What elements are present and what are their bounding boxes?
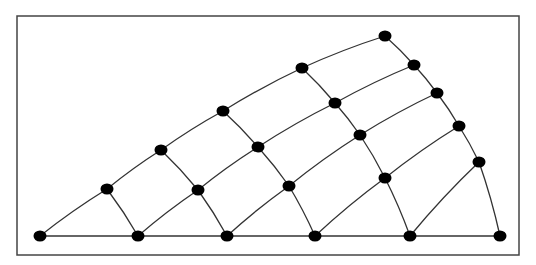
mesh-edge <box>360 93 437 135</box>
mesh-node <box>252 142 265 153</box>
mesh-diagram <box>0 0 536 265</box>
mesh-edge <box>302 36 385 68</box>
mesh-node <box>221 231 234 242</box>
mesh-edge <box>138 190 198 236</box>
mesh-edges <box>40 36 500 236</box>
mesh-edge <box>161 111 223 150</box>
mesh-edge <box>223 111 258 147</box>
mesh-node <box>379 173 392 184</box>
mesh-node <box>283 181 296 192</box>
mesh-node <box>155 145 168 156</box>
mesh-node <box>494 231 507 242</box>
mesh-edge <box>227 186 289 236</box>
mesh-edge <box>385 178 410 236</box>
mesh-node <box>453 121 466 132</box>
mesh-edge <box>335 65 414 103</box>
mesh-node <box>34 231 47 242</box>
mesh-edge <box>479 162 500 236</box>
mesh-node <box>296 63 309 74</box>
mesh-edge <box>385 36 414 65</box>
mesh-edge <box>198 147 258 190</box>
mesh-edge <box>459 126 479 162</box>
mesh-node <box>404 231 417 242</box>
mesh-node <box>408 60 421 71</box>
mesh-edge <box>437 93 459 126</box>
mesh-node <box>309 231 322 242</box>
mesh-edge <box>198 190 227 236</box>
mesh-node <box>379 31 392 42</box>
mesh-edge <box>302 68 335 103</box>
mesh-edge <box>289 135 360 186</box>
mesh-edge <box>360 135 385 178</box>
mesh-node <box>431 88 444 99</box>
mesh-node <box>354 130 367 141</box>
mesh-edge <box>258 147 289 186</box>
mesh-nodes <box>34 31 507 242</box>
mesh-node <box>473 157 486 168</box>
mesh-node <box>217 106 230 117</box>
mesh-edge <box>385 126 459 178</box>
mesh-edge <box>335 103 360 135</box>
mesh-edge <box>107 150 161 189</box>
mesh-edge <box>40 189 107 236</box>
mesh-node <box>329 98 342 109</box>
mesh-node <box>192 185 205 196</box>
mesh-edge <box>223 68 302 111</box>
mesh-node <box>132 231 145 242</box>
mesh-edge <box>258 103 335 147</box>
mesh-edge <box>289 186 315 236</box>
mesh-edge <box>107 189 138 236</box>
mesh-edge <box>410 162 479 236</box>
mesh-edge <box>315 178 385 236</box>
mesh-node <box>101 184 114 195</box>
mesh-edge <box>161 150 198 190</box>
